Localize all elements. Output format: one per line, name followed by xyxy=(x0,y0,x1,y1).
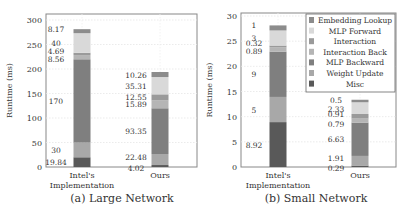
y-tick-label: 25 xyxy=(227,37,237,46)
bar-segment xyxy=(74,55,91,59)
legend-swatch xyxy=(309,17,314,23)
y-tick-label: 100 xyxy=(27,114,42,123)
bar-segment xyxy=(352,100,369,103)
bar-segment xyxy=(74,59,91,142)
y-tick-label: 0 xyxy=(232,163,237,172)
bar-segment xyxy=(152,165,169,167)
value-label: 22.48 xyxy=(125,153,147,162)
x-tick-label: Intel's xyxy=(69,171,94,180)
plot-frame xyxy=(46,14,197,167)
bar-segment xyxy=(270,25,287,30)
value-label: 170 xyxy=(49,97,64,106)
value-label: 5 xyxy=(252,106,257,115)
value-label: 0.89 xyxy=(246,47,263,56)
value-label: 6.63 xyxy=(328,135,345,144)
y-tick-label: 15 xyxy=(227,88,237,97)
legend-label: Misc xyxy=(346,80,364,89)
y-tick-label: 20 xyxy=(227,62,237,71)
bar-segment xyxy=(270,47,287,51)
value-label: 1.91 xyxy=(328,154,345,163)
value-label: 10.26 xyxy=(125,71,147,80)
x-tick-label: Intel's xyxy=(265,171,290,180)
value-label: 4.69 xyxy=(48,47,65,56)
value-label: 4.02 xyxy=(128,164,145,173)
bar-segment xyxy=(352,123,369,156)
y-tick-label: 300 xyxy=(27,16,42,25)
x-tick-label: Implementation xyxy=(50,181,114,190)
bar-segment xyxy=(152,108,169,154)
y-axis-label: Runtime (ms) xyxy=(5,63,14,118)
bar-segment xyxy=(352,119,369,123)
bar-segment xyxy=(352,114,369,119)
value-label: 19.84 xyxy=(45,158,67,167)
bar-segment xyxy=(352,166,369,167)
y-tick-label: 0 xyxy=(37,163,42,172)
bar-segment xyxy=(270,52,287,97)
x-tick-label: Implementation xyxy=(246,181,310,190)
bar-segment xyxy=(74,33,91,53)
value-label: 9 xyxy=(252,70,257,79)
legend-label: Embedding Lookup xyxy=(318,16,392,25)
y-tick-label: 200 xyxy=(27,65,42,74)
chart-small-network: 051015202530Runtime (ms)8.92590.890.3231… xyxy=(205,12,396,190)
legend-swatch xyxy=(309,49,314,55)
bar-segment xyxy=(270,46,287,48)
value-label: 93.35 xyxy=(125,127,147,136)
bar-segment xyxy=(270,122,287,167)
legend-label: MLP Forward xyxy=(329,27,381,36)
bar-segment xyxy=(270,30,287,45)
x-tick-label: Ours xyxy=(150,171,170,180)
bar-segment xyxy=(74,143,91,158)
legend-swatch xyxy=(309,28,314,34)
bar-segment xyxy=(74,53,91,55)
value-label: 8.56 xyxy=(48,55,65,64)
value-label: 0.79 xyxy=(328,120,345,129)
value-label: 0.5 xyxy=(330,96,342,105)
legend-swatch xyxy=(309,70,314,76)
bar-segment xyxy=(74,29,91,33)
value-label: 0.29 xyxy=(328,164,345,173)
bar-segment xyxy=(152,94,169,100)
bar-segment xyxy=(152,154,169,165)
y-tick-label: 5 xyxy=(232,138,237,147)
y-tick-label: 10 xyxy=(227,113,237,122)
value-label: 8.92 xyxy=(246,141,263,150)
figure: 050100150200250300Runtime (ms)19.8430170… xyxy=(0,0,406,223)
chart-large-network: 050100150200250300Runtime (ms)19.8430170… xyxy=(5,14,197,190)
value-label: 35.31 xyxy=(125,82,146,91)
bar-segment xyxy=(152,72,169,77)
bar-segment xyxy=(352,102,369,114)
value-label: 30 xyxy=(51,146,61,155)
legend-label: MLP Backward xyxy=(326,58,384,67)
bar-segment xyxy=(74,157,91,167)
legend: Embedding LookupMLP ForwardInteractionIn… xyxy=(306,14,395,92)
legend-label: Interaction Back xyxy=(323,48,387,57)
y-tick-label: 50 xyxy=(32,139,42,148)
value-label: 2.33 xyxy=(328,105,345,114)
bar-segment xyxy=(152,77,169,94)
value-label: 1 xyxy=(252,21,257,30)
legend-label: Interaction xyxy=(334,37,376,46)
y-tick-label: 150 xyxy=(27,90,42,99)
bar-segment xyxy=(152,100,169,108)
y-tick-label: 250 xyxy=(27,41,42,50)
caption-small-network: (b) Small Network xyxy=(236,192,396,205)
caption-large-network: (a) Large Network xyxy=(42,192,202,205)
legend-swatch xyxy=(309,81,314,87)
value-label: 8.17 xyxy=(48,25,65,34)
bar-segment xyxy=(352,156,369,166)
value-label: 3 xyxy=(252,34,257,43)
legend-swatch xyxy=(309,38,314,44)
x-tick-label: Ours xyxy=(350,171,370,180)
y-tick-label: 30 xyxy=(227,12,237,21)
legend-swatch xyxy=(309,59,314,65)
value-label: 40 xyxy=(51,39,61,48)
bar-segment xyxy=(270,97,287,122)
value-label: 12.55 xyxy=(125,93,147,102)
legend-label: Weight Update xyxy=(327,69,384,78)
y-axis-label: Runtime (ms) xyxy=(205,63,214,118)
